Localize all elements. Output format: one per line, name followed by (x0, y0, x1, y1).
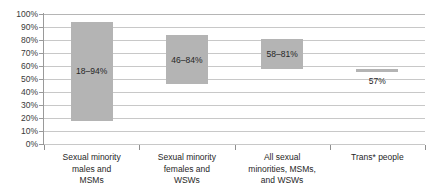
x-category-label-line: minorities, MSMs, (235, 164, 330, 176)
y-tick-label: 80% (4, 36, 38, 45)
y-tick-mark (39, 144, 43, 145)
x-category-label-line: Sexual minority (44, 152, 139, 164)
y-tick-mark (39, 79, 43, 80)
y-tick-label: 40% (4, 88, 38, 97)
y-tick-label: 90% (4, 23, 38, 32)
y-tick-mark (39, 40, 43, 41)
bar (356, 69, 398, 72)
y-tick-mark (39, 131, 43, 132)
gridline (44, 14, 425, 15)
x-category-label-line: females and (139, 164, 234, 176)
y-tick-label: 50% (4, 75, 38, 84)
x-tick-mark (139, 145, 140, 150)
bar-value-label: 18–94% (52, 67, 132, 76)
y-tick-label: 20% (4, 114, 38, 123)
y-tick-mark (39, 14, 43, 15)
y-tick-label: 60% (4, 62, 38, 71)
y-tick-mark (39, 105, 43, 106)
x-category-label-line: males and (44, 164, 139, 176)
bar-value-label: 57% (337, 77, 417, 86)
bar-value-label: 58–81% (242, 50, 322, 59)
bar-value-label: 46–84% (147, 56, 227, 65)
y-tick-mark (39, 66, 43, 67)
x-category-label: All sexualminorities, MSMs,and WSWs (235, 152, 330, 187)
x-category-label-line: MSMs (44, 175, 139, 187)
x-category-label: Sexual minoritymales andMSMs (44, 152, 139, 187)
y-tick-label: 30% (4, 101, 38, 110)
y-tick-label: 70% (4, 49, 38, 58)
x-category-label-line: and WSWs (235, 175, 330, 187)
y-tick-label: 0% (4, 140, 38, 149)
x-category-label-line: Sexual minority (139, 152, 234, 164)
x-category-label-line: All sexual (235, 152, 330, 164)
gridline (44, 131, 425, 132)
x-category-label: Trans* people (330, 152, 425, 164)
range-bar-chart: 100%90%80%70%60%50%40%30%20%10%0% Sexual… (0, 0, 439, 195)
x-tick-mark (425, 145, 426, 150)
y-tick-mark (39, 118, 43, 119)
x-category-label-line: Trans* people (330, 152, 425, 164)
x-category-label-line: WSWs (139, 175, 234, 187)
y-tick-label: 100% (4, 10, 38, 19)
y-tick-mark (39, 53, 43, 54)
x-tick-mark (330, 145, 331, 150)
x-tick-mark (44, 145, 45, 150)
x-category-label: Sexual minorityfemales andWSWs (139, 152, 234, 187)
y-tick-mark (39, 92, 43, 93)
y-tick-mark (39, 27, 43, 28)
x-tick-mark (235, 145, 236, 150)
y-tick-label: 10% (4, 127, 38, 136)
